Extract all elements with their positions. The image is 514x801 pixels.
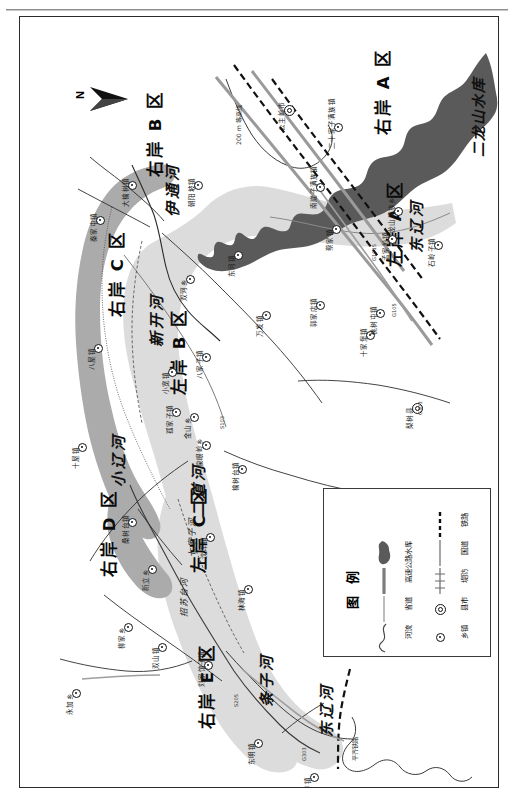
water-feature-label: 条子河 bbox=[260, 653, 275, 707]
town-label: 东河镇 bbox=[229, 255, 236, 277]
road-number-label: G105 bbox=[392, 303, 397, 317]
reservoir-blob-icon bbox=[376, 539, 392, 567]
road-number-label: S205 bbox=[234, 694, 239, 707]
legend-item-label: 省道 bbox=[402, 597, 413, 611]
town-label: 大榆树镇 bbox=[123, 178, 130, 207]
town-label: 新立乡 bbox=[143, 569, 150, 591]
legend-item-label: 水库 bbox=[402, 541, 413, 555]
expressway-line-icon bbox=[376, 567, 392, 595]
town-label: 龙山满族乡 bbox=[389, 197, 396, 234]
national-road-line-icon bbox=[432, 539, 448, 567]
road-number-label: G303 bbox=[418, 401, 423, 415]
zone-label: 右岸 D 区 bbox=[102, 489, 119, 577]
town-label: 郭家店镇 bbox=[311, 298, 318, 327]
north-arrow-icon bbox=[72, 79, 132, 119]
town-label: 沈洋镇 bbox=[201, 537, 208, 559]
town-label: 朝阳坡镇 bbox=[189, 178, 196, 207]
town-label: 金山乡 bbox=[185, 417, 192, 439]
map-neatline-frame: N 右岸 A 区左岸 A 区右岸 B 区左岸 B 区右岸 C 区左岸 C 区右岸… bbox=[19, 16, 499, 788]
water-feature-label: 小辽河 bbox=[112, 433, 127, 487]
map-sheet: N 右岸 A 区左岸 A 区右岸 B 区左岸 B 区右岸 C 区左岸 C 区右岸… bbox=[0, 0, 514, 801]
railway-line-icon bbox=[432, 511, 448, 539]
town-label: 石岭子镇 bbox=[429, 238, 436, 267]
town-label: 王奔镇 bbox=[305, 777, 312, 788]
legend-item-label: 县市 bbox=[458, 597, 469, 611]
water-feature-label: 七家子河 bbox=[188, 517, 197, 557]
legend-item-label: 堤防 bbox=[458, 569, 469, 583]
water-feature-label: 二道河 bbox=[192, 463, 207, 517]
water-feature-label: 招苏台河 bbox=[180, 577, 189, 617]
town-label: 八家子镇 bbox=[197, 350, 204, 379]
town-label: 蔡家镇 bbox=[327, 229, 334, 251]
town-label: 南崴子满族镇 bbox=[311, 165, 318, 209]
town-label: 秦家屯镇 bbox=[91, 213, 98, 242]
town-label: 孟家岭镇 bbox=[383, 232, 390, 261]
town-label: 泉眼岭乡 bbox=[197, 438, 204, 467]
town-label: 十家堡镇 bbox=[361, 328, 368, 357]
river-dongliao-lower-line bbox=[343, 717, 472, 781]
zone-label: 左岸 B 区 bbox=[172, 308, 189, 395]
water-feature-label: 伊通河 bbox=[166, 163, 181, 217]
town-label: 小宽镇 bbox=[163, 372, 170, 394]
map-legend: 图 例 乡镇县市堤防国道铁路河流省道高速公路水库 bbox=[323, 488, 491, 657]
water-feature-label: 东辽河 bbox=[410, 199, 425, 253]
water-feature-label: 二龙山水库 bbox=[472, 77, 487, 157]
map-annotation: 平齐铁路 bbox=[352, 737, 358, 761]
town-label: 孤家子镇 bbox=[167, 405, 174, 434]
north-arrow-label: N bbox=[74, 91, 86, 99]
town-label: 十屋镇 bbox=[73, 447, 80, 469]
legend-item-label: 铁路 bbox=[458, 513, 469, 527]
provincial-road-line-icon bbox=[376, 595, 392, 623]
north-arrow: N bbox=[72, 79, 132, 119]
town-label: 桃树屯镇 bbox=[371, 306, 378, 335]
town-label: 公主岭市 bbox=[279, 102, 286, 131]
town-label: 榆树台镇 bbox=[233, 462, 240, 491]
town-label: 刘家馆子镇 bbox=[199, 651, 206, 688]
levee-line-icon bbox=[432, 567, 448, 595]
zone-label: 右岸 B 区 bbox=[148, 90, 165, 177]
town-label: 永加乡 bbox=[67, 693, 74, 715]
water-feature-label: 新开河 bbox=[150, 293, 165, 347]
town-label: 双河乡 bbox=[181, 279, 188, 301]
zone-label: 右岸 C 区 bbox=[110, 230, 127, 317]
town-label: 二十家子满族镇 bbox=[329, 98, 336, 149]
city-circle-icon bbox=[432, 595, 448, 623]
town-label: 东明镇 bbox=[249, 743, 256, 765]
town-dot-icon bbox=[432, 623, 448, 651]
town-label: 八屋镇 bbox=[89, 348, 96, 370]
legend-item-label: 国道 bbox=[458, 541, 469, 555]
road-number-label: G1015 bbox=[372, 244, 377, 261]
legend-item-label: 河流 bbox=[402, 625, 413, 639]
zone-label: 右岸 A 区 bbox=[376, 48, 393, 135]
legend-item-label: 高速公路 bbox=[402, 555, 413, 583]
town-label: 林海镇 bbox=[239, 589, 246, 611]
water-feature-label: 东辽河 bbox=[320, 683, 335, 737]
scan-rule-top-secondary bbox=[6, 10, 508, 11]
legend-item-label: 乡镇 bbox=[458, 625, 469, 639]
town-label: 万发镇 bbox=[257, 315, 264, 337]
floodplain-light-polygon bbox=[123, 186, 456, 769]
town-label: 梨树县 bbox=[407, 407, 414, 429]
road-number-label: G303 bbox=[302, 747, 307, 761]
river-curve-icon bbox=[376, 623, 392, 651]
legend-title: 图 例 bbox=[342, 567, 361, 609]
town-label: 柳家乡 bbox=[119, 627, 126, 649]
road-number-label: S103 bbox=[220, 416, 225, 429]
town-label: 桑树台镇 bbox=[123, 515, 130, 544]
town-label: 双山镇 bbox=[153, 647, 160, 669]
map-annotation: 200 m 等高线 bbox=[236, 105, 242, 145]
